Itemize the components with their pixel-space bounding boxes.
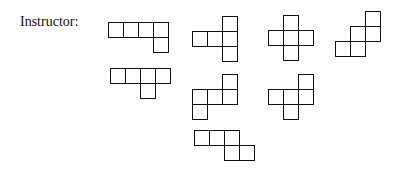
square-cell	[194, 130, 210, 146]
square-cell	[108, 22, 124, 38]
square-cell	[365, 26, 381, 42]
square-cell	[192, 104, 208, 120]
square-cell	[298, 30, 314, 46]
square-cell	[192, 89, 208, 105]
square-cell	[283, 30, 299, 46]
square-cell	[207, 31, 223, 47]
square-cell	[153, 37, 169, 53]
square-cell	[283, 89, 299, 105]
square-cell	[207, 89, 223, 105]
square-cell	[239, 145, 255, 161]
square-cell	[283, 104, 299, 120]
instructor-label: Instructor:	[20, 14, 78, 30]
square-cell	[125, 68, 141, 84]
square-cell	[110, 68, 126, 84]
square-cell	[140, 68, 156, 84]
square-cell	[283, 15, 299, 31]
square-cell	[222, 89, 238, 105]
square-cell	[222, 31, 238, 47]
square-cell	[123, 22, 139, 38]
square-cell	[298, 89, 314, 105]
square-cell	[222, 74, 238, 90]
square-cell	[365, 11, 381, 27]
square-cell	[209, 130, 225, 146]
square-cell	[192, 31, 208, 47]
square-cell	[350, 26, 366, 42]
square-cell	[138, 22, 154, 38]
square-cell	[350, 41, 366, 57]
square-cell	[298, 74, 314, 90]
square-cell	[224, 130, 240, 146]
square-cell	[268, 30, 284, 46]
square-cell	[335, 41, 351, 57]
square-cell	[155, 68, 171, 84]
square-cell	[224, 145, 240, 161]
square-cell	[222, 16, 238, 32]
square-cell	[140, 83, 156, 99]
square-cell	[283, 45, 299, 61]
square-cell	[153, 22, 169, 38]
square-cell	[268, 89, 284, 105]
square-cell	[222, 46, 238, 62]
